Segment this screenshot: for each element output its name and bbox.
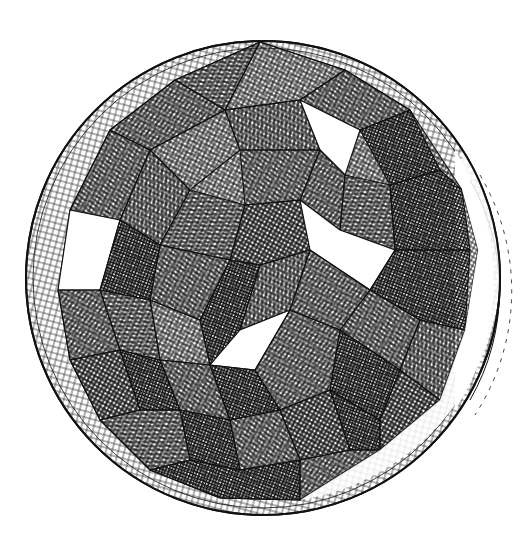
engraving-canvas xyxy=(0,0,525,541)
polyhedron-sphere-engraving xyxy=(0,0,525,541)
